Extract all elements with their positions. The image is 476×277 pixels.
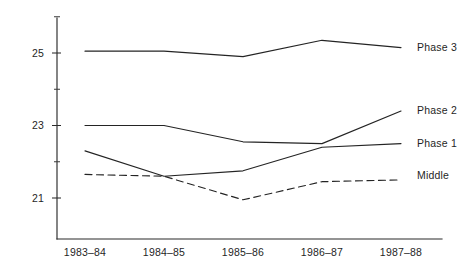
series-label-phase-2: Phase 2 <box>417 104 457 116</box>
x-tick-label-1984-85: 1984–85 <box>143 246 185 258</box>
chart-canvas: 212325 1983–841984–851985–861986–871987–… <box>0 0 476 277</box>
series-line-phase-1 <box>85 144 401 177</box>
x-axis-tick-labels: 1983–841984–851985–861986–871987–88 <box>64 246 422 258</box>
series-line-phase-2 <box>85 111 401 144</box>
series-label-phase-3: Phase 3 <box>417 41 457 53</box>
series-label-middle: Middle <box>417 169 449 181</box>
line-chart: 212325 1983–841984–851985–861986–871987–… <box>0 0 476 277</box>
series-line-phase-3 <box>85 40 401 56</box>
y-axis-tick-labels: 212325 <box>32 47 44 204</box>
x-tick-label-1987-88: 1987–88 <box>380 246 422 258</box>
series-lines-group <box>85 40 401 200</box>
y-tick-label-23: 23 <box>32 119 44 131</box>
x-tick-label-1983-84: 1983–84 <box>64 246 106 258</box>
series-line-middle <box>85 174 401 199</box>
series-labels-group: Phase 3Phase 2Phase 1Middle <box>417 41 457 181</box>
x-tick-label-1986-87: 1986–87 <box>301 246 343 258</box>
x-tick-label-1985-86: 1985–86 <box>222 246 264 258</box>
series-label-phase-1: Phase 1 <box>417 137 457 149</box>
y-tick-label-21: 21 <box>32 192 44 204</box>
y-tick-label-25: 25 <box>32 47 44 59</box>
